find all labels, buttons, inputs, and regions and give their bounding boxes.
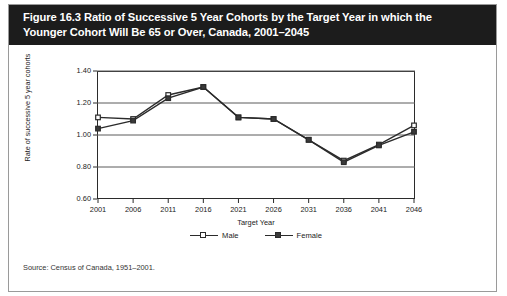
data-point-female-2011 (166, 96, 171, 101)
series-line-female (98, 87, 414, 162)
data-point-male-2001 (96, 115, 101, 120)
x-tick-label: 2026 (254, 205, 294, 214)
x-axis-title: Target Year (97, 218, 415, 227)
x-tick-label: 2001 (78, 205, 118, 214)
legend-entry-female: Female (265, 231, 322, 240)
data-point-female-2001 (96, 126, 101, 131)
chart-area: Rate of successive 5 year cohorts 0.600.… (9, 45, 498, 253)
legend-label-female: Female (297, 231, 322, 240)
x-tick-label: 2016 (183, 205, 223, 214)
series-line-male (98, 87, 414, 161)
legend-label-male: Male (222, 231, 238, 240)
figure-title-line-1: Figure 16.3 Ratio of Successive 5 Year C… (23, 10, 486, 25)
chart-legend: Male Female (97, 231, 415, 240)
y-tick-label: 1.40 (51, 66, 91, 75)
y-tick-marks (93, 71, 97, 199)
data-point-female-2026 (271, 117, 276, 122)
figure-title-banner: Figure 16.3 Ratio of Successive 5 Year C… (9, 5, 496, 45)
gridlines-group (97, 71, 415, 167)
source-note: Source: Census of Canada, 1951–2001. (23, 263, 155, 272)
data-point-female-2021 (236, 115, 241, 120)
data-series-group (96, 85, 417, 165)
legend-line-female (265, 235, 293, 236)
x-tick-label: 2006 (113, 205, 153, 214)
x-tick-marks (98, 199, 414, 203)
filled-square-icon (275, 232, 281, 238)
y-tick-label: 1.00 (51, 130, 91, 139)
x-tick-label: 2036 (324, 205, 364, 214)
x-tick-label: 2011 (148, 205, 188, 214)
x-tick-label: 2041 (359, 205, 399, 214)
legend-line-male (190, 235, 218, 236)
data-point-male-2046 (412, 123, 417, 128)
data-point-female-2036 (341, 160, 346, 165)
y-tick-label: 0.60 (51, 194, 91, 203)
data-point-female-2041 (377, 143, 382, 148)
x-tick-label: 2031 (289, 205, 329, 214)
figure-title-line-2: Younger Cohort Will Be 65 or Over, Canad… (23, 25, 486, 40)
legend-entry-male: Male (190, 231, 238, 240)
y-tick-label: 1.20 (51, 98, 91, 107)
data-point-female-2006 (131, 118, 136, 123)
data-point-female-2046 (412, 130, 417, 135)
figure-container: Figure 16.3 Ratio of Successive 5 Year C… (8, 4, 497, 292)
x-tick-label: 2046 (394, 205, 434, 214)
data-point-female-2016 (201, 85, 206, 90)
data-point-female-2031 (306, 138, 311, 143)
x-tick-label: 2021 (218, 205, 258, 214)
open-square-icon (200, 232, 206, 238)
y-tick-label: 0.80 (51, 162, 91, 171)
